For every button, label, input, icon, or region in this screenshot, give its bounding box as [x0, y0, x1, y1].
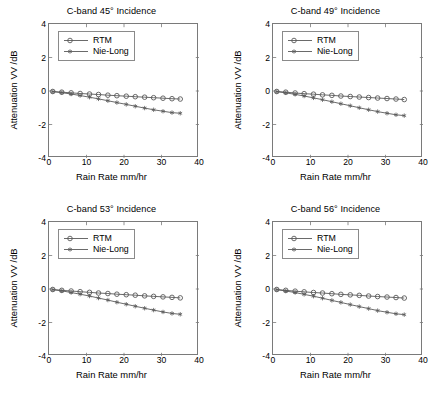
legend-sample-circle-marker — [62, 35, 90, 46]
x-tick-label: 30 — [381, 158, 391, 167]
y-tick-label: 4 — [41, 20, 46, 29]
y-tick-label: 4 — [41, 218, 46, 227]
legend-item-nie-long: Nie-Long — [62, 244, 129, 255]
legend-sample-asterisk-marker — [286, 46, 314, 57]
y-tick-label: -4 — [38, 154, 46, 163]
y-tick-label: -4 — [38, 352, 46, 361]
chart-panel-56: C-band 56° Incidence Attenuation VV /dB … — [224, 198, 447, 396]
x-tick-label: 40 — [418, 356, 428, 365]
plot-area: -4-2024010203040RTMNie-Long — [272, 23, 422, 157]
legend-label: Nie-Long — [314, 244, 353, 255]
legend-item-rtm: RTM — [62, 35, 129, 46]
legend-label: RTM — [90, 233, 112, 244]
chart-panel-49: C-band 49° Incidence Attenuation VV /dB … — [224, 0, 447, 198]
y-axis-label: Attenuation VV /dB — [8, 50, 19, 129]
x-tick-label: 0 — [271, 356, 276, 365]
legend-sample-circle-marker — [62, 233, 90, 244]
x-axis-label: Rain Rate mm/hr — [224, 171, 447, 182]
x-tick-label: 20 — [119, 158, 129, 167]
x-tick-label: 30 — [381, 356, 391, 365]
y-tick-label: -2 — [38, 318, 46, 327]
x-tick-label: 30 — [157, 356, 167, 365]
y-tick-label: -2 — [262, 120, 270, 129]
panel-title: C-band 56° Incidence — [224, 204, 447, 215]
legend-item-rtm: RTM — [286, 35, 353, 46]
x-tick-label: 10 — [306, 356, 316, 365]
x-axis-label: Rain Rate mm/hr — [0, 171, 223, 182]
panel-title: C-band 53° Incidence — [0, 204, 223, 215]
x-tick-label: 10 — [306, 158, 316, 167]
legend-item-nie-long: Nie-Long — [286, 244, 353, 255]
x-axis-label: Rain Rate mm/hr — [224, 369, 447, 380]
y-tick-label: 0 — [41, 285, 46, 294]
legend-label: Nie-Long — [90, 244, 129, 255]
y-axis-label: Attenuation VV /dB — [232, 248, 243, 327]
y-tick-label: -4 — [262, 352, 270, 361]
y-tick-label: 2 — [41, 53, 46, 62]
x-tick-label: 10 — [82, 158, 92, 167]
legend-label: Nie-Long — [90, 46, 129, 57]
y-tick-label: 4 — [265, 20, 270, 29]
panel-title: C-band 49° Incidence — [224, 6, 447, 17]
x-tick-label: 0 — [47, 356, 52, 365]
chart-panel-45: C-band 45° Incidence Attenuation VV /dB … — [0, 0, 223, 198]
y-tick-label: 2 — [265, 53, 270, 62]
plot-area: -4-2024010203040RTMNie-Long — [48, 23, 198, 157]
y-tick-label: 0 — [41, 87, 46, 96]
legend-label: RTM — [314, 35, 336, 46]
legend: RTMNie-Long — [282, 31, 359, 61]
legend: RTMNie-Long — [58, 31, 135, 61]
legend-label: RTM — [90, 35, 112, 46]
y-tick-label: 4 — [265, 218, 270, 227]
legend-label: Nie-Long — [314, 46, 353, 57]
legend: RTMNie-Long — [282, 229, 359, 259]
y-tick-label: 2 — [265, 251, 270, 260]
x-tick-label: 40 — [418, 158, 428, 167]
legend-item-nie-long: Nie-Long — [286, 46, 353, 57]
x-tick-label: 0 — [47, 158, 52, 167]
y-axis-label: Attenuation VV /dB — [8, 248, 19, 327]
y-tick-label: -4 — [262, 154, 270, 163]
y-axis-label: Attenuation VV /dB — [232, 50, 243, 129]
legend-label: RTM — [314, 233, 336, 244]
x-tick-label: 0 — [271, 158, 276, 167]
y-tick-label: 0 — [265, 285, 270, 294]
legend-sample-asterisk-marker — [286, 244, 314, 255]
legend: RTMNie-Long — [58, 229, 135, 259]
legend-sample-asterisk-marker — [62, 244, 90, 255]
legend-item-nie-long: Nie-Long — [62, 46, 129, 57]
y-tick-label: -2 — [262, 318, 270, 327]
x-tick-label: 40 — [194, 158, 204, 167]
y-tick-label: 0 — [265, 87, 270, 96]
figure-multi-panel-attenuation: C-band 45° Incidence Attenuation VV /dB … — [0, 0, 447, 397]
x-tick-label: 20 — [343, 158, 353, 167]
legend-item-rtm: RTM — [286, 233, 353, 244]
x-tick-label: 40 — [194, 356, 204, 365]
x-axis-label: Rain Rate mm/hr — [0, 369, 223, 380]
plot-area: -4-2024010203040RTMNie-Long — [48, 221, 198, 355]
x-tick-label: 20 — [343, 356, 353, 365]
panel-title: C-band 45° Incidence — [0, 6, 223, 17]
y-tick-label: -2 — [38, 120, 46, 129]
legend-item-rtm: RTM — [62, 233, 129, 244]
x-tick-label: 10 — [82, 356, 92, 365]
plot-area: -4-2024010203040RTMNie-Long — [272, 221, 422, 355]
legend-sample-asterisk-marker — [62, 46, 90, 57]
x-tick-label: 30 — [157, 158, 167, 167]
y-tick-label: 2 — [41, 251, 46, 260]
legend-sample-circle-marker — [286, 35, 314, 46]
legend-sample-circle-marker — [286, 233, 314, 244]
x-tick-label: 20 — [119, 356, 129, 365]
chart-panel-53: C-band 53° Incidence Attenuation VV /dB … — [0, 198, 223, 396]
